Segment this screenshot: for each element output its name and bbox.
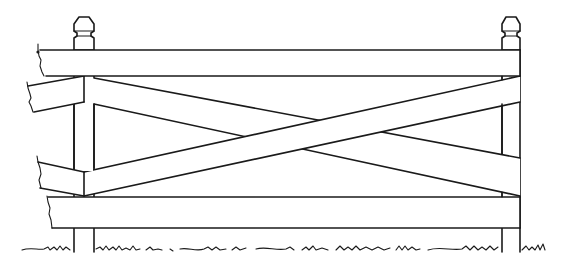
fence-drawing	[0, 0, 568, 276]
left-post-front	[74, 100, 94, 172]
fence-illustration	[0, 0, 568, 276]
right-post-cap	[502, 17, 520, 50]
bottom-rail	[47, 196, 520, 228]
grass-line	[22, 244, 545, 251]
left-post-cap	[74, 17, 94, 50]
nail-head	[36, 50, 39, 53]
top-rail	[36, 44, 520, 76]
